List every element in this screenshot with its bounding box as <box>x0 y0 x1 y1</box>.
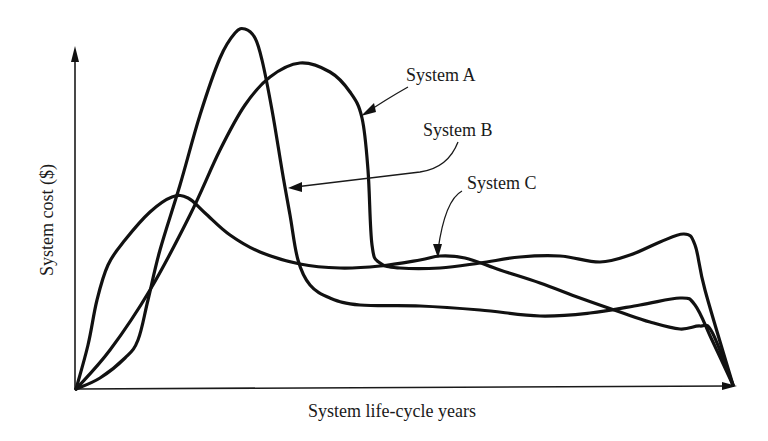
curve-system-b <box>76 28 733 389</box>
legend-label-system-b: System B <box>423 121 493 139</box>
legend-label-system-c: System C <box>467 174 537 192</box>
curve-system-a <box>76 63 733 389</box>
callout-leader-system-b <box>295 142 458 187</box>
y-axis-label: System cost ($) <box>38 164 56 276</box>
callout-arrow-system-b-icon <box>288 182 302 192</box>
legend-label-system-a: System A <box>406 66 476 84</box>
life-cycle-cost-chart <box>0 0 768 441</box>
callout-leader-system-c <box>438 191 462 250</box>
x-axis-label: System life-cycle years <box>308 402 476 420</box>
x-axis-arrow-icon <box>722 382 737 390</box>
callout-arrow-system-a-icon <box>361 103 376 116</box>
y-axis-arrow-icon <box>71 46 79 62</box>
curve-system-c <box>76 195 733 389</box>
x-axis-line <box>75 386 730 389</box>
